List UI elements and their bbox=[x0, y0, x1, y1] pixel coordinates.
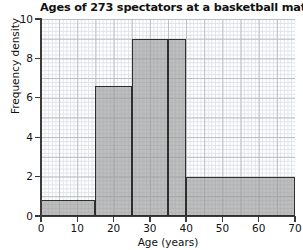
chart-title: Ages of 273 spectators at a basketball m… bbox=[40, 1, 298, 14]
y-axis-label: Frequency density bbox=[9, 0, 21, 136]
histogram-bar bbox=[41, 200, 95, 216]
x-axis-tick-label: 70 bbox=[280, 223, 303, 234]
y-axis-tick bbox=[35, 176, 40, 177]
y-axis-line bbox=[40, 18, 42, 217]
y-axis-tick-label: 0 bbox=[5, 211, 33, 222]
histogram-figure: Ages of 273 spectators at a basketball m… bbox=[0, 0, 303, 250]
histogram-bar bbox=[132, 39, 168, 216]
x-axis-tick-label: 20 bbox=[99, 223, 129, 234]
y-axis-tick bbox=[35, 97, 40, 98]
y-axis-tick-label: 2 bbox=[5, 171, 33, 182]
x-axis-tick-label: 60 bbox=[244, 223, 274, 234]
x-axis-tick-label: 50 bbox=[207, 223, 237, 234]
x-axis-tick-label: 30 bbox=[135, 223, 165, 234]
y-axis-tick bbox=[35, 18, 40, 19]
y-axis-tick bbox=[35, 215, 40, 216]
histogram-bar bbox=[168, 39, 186, 216]
y-axis-tick bbox=[35, 137, 40, 138]
x-axis-tick-label: 10 bbox=[62, 223, 92, 234]
x-axis-tick-label: 40 bbox=[171, 223, 201, 234]
x-axis-label: Age (years) bbox=[41, 236, 295, 248]
histogram-bar bbox=[186, 177, 295, 216]
histogram-bar bbox=[95, 86, 131, 216]
x-axis-tick-label: 0 bbox=[26, 223, 56, 234]
plot-area bbox=[41, 19, 295, 216]
y-axis-tick bbox=[35, 58, 40, 59]
